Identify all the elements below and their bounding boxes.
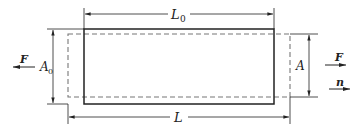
final-area-label: A [295,59,305,73]
final-area-dimension: A [290,34,318,97]
original-bar-outline [84,29,274,104]
right-force-arrow: F [325,51,346,65]
final-length-dimension: L [68,97,290,125]
original-length-subscript: 0 [180,14,186,24]
original-area-dimension: A 0 [39,29,84,104]
original-length-dimension: L 0 [84,7,274,29]
normal-vector-label: n [336,76,344,89]
left-force-arrow: F [13,53,35,67]
tension-diagram: L 0 L A 0 A F F n [0,0,360,129]
original-length-label: L [170,7,180,22]
normal-vector-arrow: n [329,76,350,89]
original-area-subscript: 0 [48,67,53,76]
deformed-bar-outline [68,34,290,97]
final-length-label: L [173,110,183,125]
left-force-label: F [19,53,29,66]
right-force-label: F [334,51,344,64]
